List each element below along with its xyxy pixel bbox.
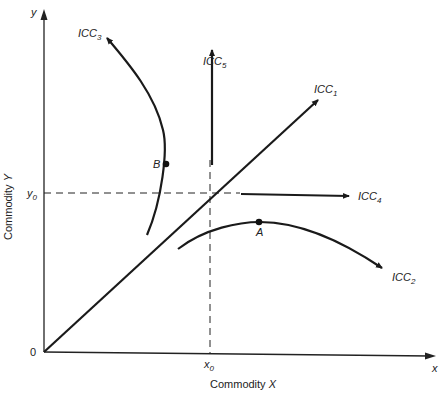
icc2-label: ICC2	[392, 271, 416, 286]
icc3-curve	[107, 38, 165, 235]
x-axis	[44, 352, 436, 360]
icc1-label: ICC1	[314, 83, 337, 98]
icc-diagram: y x 0 y0 x0 Commodity X Commodity Y ICC3…	[0, 0, 444, 394]
icc2-curve	[178, 222, 382, 268]
point-a-label: A	[255, 226, 263, 238]
icc4-label: ICC4	[358, 190, 382, 205]
point-b-label: B	[153, 158, 160, 170]
y-axis	[41, 9, 48, 352]
icc3-label: ICC3	[78, 27, 102, 42]
point-a	[256, 219, 263, 226]
y-axis-end-label: y	[30, 6, 38, 18]
x-axis-arrow-icon	[425, 353, 436, 360]
point-b	[163, 161, 170, 168]
x0-label: x0	[203, 358, 215, 373]
y0-label: y0	[26, 187, 38, 202]
y-axis-title: Commodity Y	[2, 173, 14, 240]
x-axis-title: Commodity X	[210, 378, 277, 390]
y-axis-arrow-icon	[41, 9, 48, 20]
x-axis-end-label: x	[431, 362, 438, 374]
origin-label: 0	[30, 346, 36, 358]
icc5-label: ICC5	[203, 55, 227, 70]
icc1-curve	[44, 100, 318, 352]
icc4-curve	[241, 194, 349, 196]
